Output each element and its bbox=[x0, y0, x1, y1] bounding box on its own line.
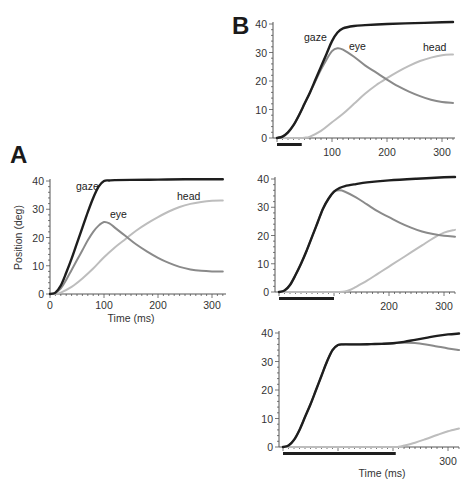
x-tick-label: 300 bbox=[203, 299, 221, 311]
head-curve bbox=[279, 230, 455, 292]
head-label: head bbox=[423, 41, 447, 53]
y-tick-label: 30 bbox=[32, 203, 44, 215]
x-tick-label: 300 bbox=[439, 455, 457, 467]
y-axis-title: Position (deg) bbox=[12, 205, 24, 270]
x-tick-label: 0 bbox=[47, 299, 53, 311]
y-tick-label: 30 bbox=[261, 356, 273, 368]
head-curve bbox=[283, 428, 459, 447]
x-tick-label: 300 bbox=[435, 300, 453, 312]
y-tick-label: 10 bbox=[32, 260, 44, 272]
panel-b3-chart: 010203040300Time (ms) bbox=[261, 327, 459, 479]
gaze-curve bbox=[283, 334, 459, 447]
y-tick-label: 40 bbox=[255, 18, 267, 30]
panel-b1-chart: 010203040100200300gazeeyehead bbox=[255, 18, 455, 158]
head-label: head bbox=[177, 190, 201, 202]
eye-label: eye bbox=[110, 208, 127, 220]
y-tick-label: 0 bbox=[38, 288, 44, 300]
y-tick-label: 30 bbox=[257, 201, 269, 213]
gaze-label: gaze bbox=[304, 31, 327, 43]
stimulus-bar bbox=[277, 143, 302, 146]
stimulus-bar bbox=[283, 452, 396, 455]
y-tick-label: 40 bbox=[32, 175, 44, 187]
y-tick-label: 20 bbox=[257, 230, 269, 242]
x-tick-label: 100 bbox=[95, 299, 113, 311]
x-tick-label: 200 bbox=[380, 300, 398, 312]
figure: A B 0102030400100200300Time (ms)Position… bbox=[0, 0, 473, 484]
y-tick-label: 40 bbox=[257, 173, 269, 185]
y-tick-label: 0 bbox=[263, 286, 269, 298]
stimulus-bar bbox=[279, 297, 334, 300]
panel-b-letter: B bbox=[232, 12, 249, 39]
x-tick-label: 200 bbox=[378, 146, 396, 158]
y-tick-label: 20 bbox=[32, 232, 44, 244]
panel-a-chart: 0102030400100200300Time (ms)Position (de… bbox=[12, 175, 226, 324]
panel-a-letter: A bbox=[10, 141, 27, 168]
gaze-curve bbox=[279, 177, 455, 292]
y-tick-label: 30 bbox=[255, 47, 267, 59]
eye-curve bbox=[283, 343, 459, 447]
y-tick-label: 10 bbox=[257, 258, 269, 270]
y-tick-label: 10 bbox=[255, 104, 267, 116]
panel-b2-chart: 010203040200300 bbox=[257, 173, 455, 312]
x-tick-label: 200 bbox=[149, 299, 167, 311]
y-tick-label: 20 bbox=[255, 75, 267, 87]
eye-label: eye bbox=[349, 40, 366, 52]
y-tick-label: 40 bbox=[261, 327, 273, 339]
gaze-label: gaze bbox=[76, 180, 99, 192]
x-axis-title: Time (ms) bbox=[359, 467, 406, 479]
y-tick-label: 10 bbox=[261, 413, 273, 425]
y-tick-label: 20 bbox=[261, 384, 273, 396]
x-tick-label: 300 bbox=[433, 146, 451, 158]
head-curve bbox=[277, 54, 453, 138]
y-tick-label: 0 bbox=[267, 441, 273, 453]
x-axis-title: Time (ms) bbox=[108, 312, 155, 324]
x-tick-label: 100 bbox=[323, 146, 341, 158]
y-tick-label: 0 bbox=[261, 132, 267, 144]
